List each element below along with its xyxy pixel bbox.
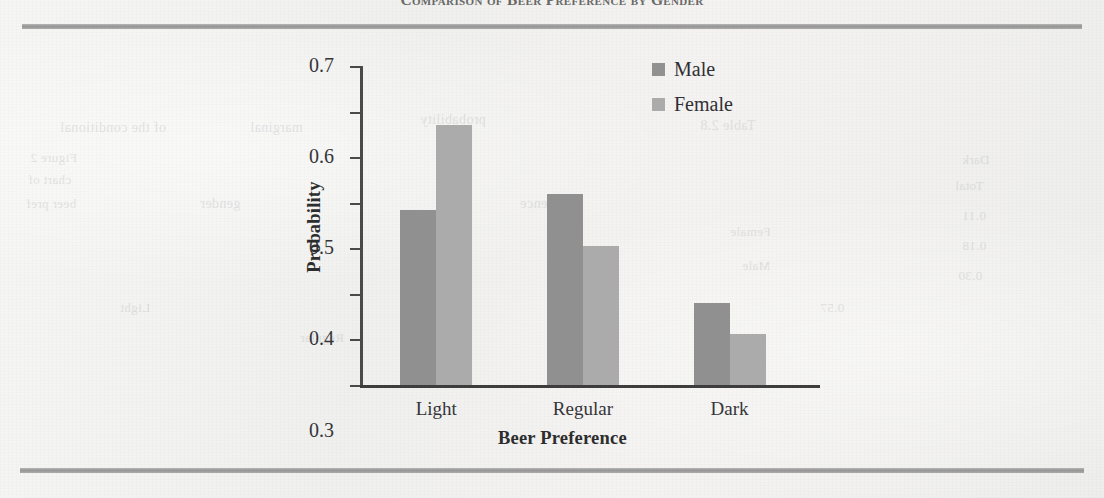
bleed-through-text: 0.30 bbox=[958, 268, 982, 284]
y-tick-label: 0.3 bbox=[309, 419, 334, 442]
rule-top bbox=[22, 24, 1082, 29]
bar-dark-male bbox=[694, 303, 730, 385]
y-tick-mark: 0.2 bbox=[350, 294, 360, 296]
y-tick-label: 0.7 bbox=[309, 54, 334, 77]
y-tick-mark: 0.5 bbox=[350, 157, 360, 159]
bleed-through-text: Total bbox=[955, 178, 984, 194]
y-tick-label: 0.4 bbox=[309, 327, 334, 350]
bleed-through-text: 0.11 bbox=[962, 208, 986, 224]
x-tick-label: Dark bbox=[711, 398, 749, 420]
x-tick-label: Regular bbox=[553, 398, 613, 420]
y-tick-mark: 0.1 bbox=[350, 339, 360, 341]
bar-regular-female bbox=[583, 246, 619, 385]
bleed-through-text: beer pref bbox=[26, 196, 76, 212]
plot-area: 00.10.20.30.40.50.60.7 LightRegularDark … bbox=[360, 66, 800, 388]
y-axis-title: Probability bbox=[304, 181, 325, 272]
bleed-through-text: Light bbox=[120, 300, 150, 316]
y-tick-mark: 0.4 bbox=[350, 203, 360, 205]
y-tick-mark: 0.7 bbox=[350, 66, 360, 68]
x-axis-line bbox=[360, 385, 820, 388]
bleed-through-text: marginal bbox=[250, 120, 303, 136]
bleed-through-text: of the conditional bbox=[60, 120, 166, 136]
x-tick-label: Light bbox=[416, 398, 457, 420]
bleed-through-text: 0.18 bbox=[962, 238, 986, 254]
bar-chart: Male Female 00.10.20.30.40.50.60.7 Light… bbox=[300, 52, 860, 442]
bleed-through-text: Dark bbox=[962, 152, 990, 168]
y-tick-mark: 0.3 bbox=[350, 248, 360, 250]
bleed-through-text: chart of bbox=[28, 172, 71, 188]
y-tick-label: 0.6 bbox=[309, 145, 334, 168]
bar-light-male bbox=[400, 210, 436, 385]
bleed-through-text: Figure 2 bbox=[30, 150, 77, 166]
y-tick-mark: 0.6 bbox=[350, 112, 360, 114]
x-axis-title: Beer Preference bbox=[498, 428, 627, 449]
y-axis-line bbox=[360, 66, 363, 388]
page-title: Comparison of Beer Preference by Gender bbox=[0, 0, 1104, 9]
bar-regular-male bbox=[547, 194, 583, 385]
bar-dark-female bbox=[730, 334, 766, 385]
scanned-page: Comparison of Beer Preference by Gender … bbox=[0, 0, 1104, 498]
rule-bottom bbox=[20, 468, 1084, 473]
bar-light-female bbox=[436, 125, 472, 385]
y-tick-mark: 0 bbox=[350, 385, 360, 387]
bleed-through-text: gender bbox=[200, 196, 241, 212]
